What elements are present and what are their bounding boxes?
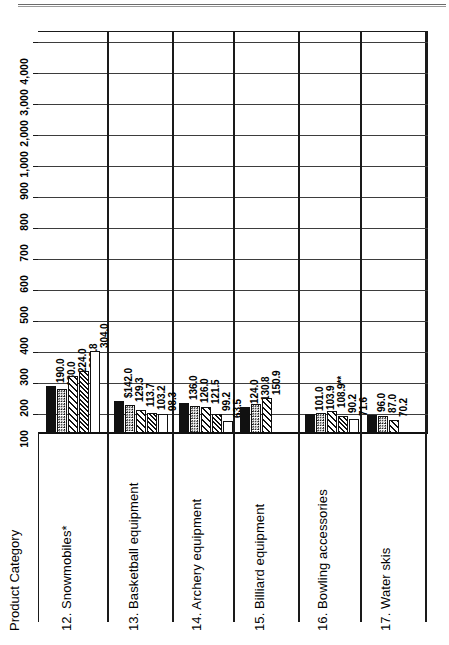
value-axis-tick-label: 1,000 — [18, 151, 30, 178]
category-label: 12. Snowmobiles* — [59, 525, 74, 631]
value-axis-tick-label: 600 — [18, 275, 30, 293]
label-band-left-rule — [38, 432, 39, 622]
tick-mark — [33, 352, 38, 353]
bar — [240, 407, 250, 433]
bar — [212, 414, 222, 433]
value-axis-tick-label: 200 — [18, 399, 30, 417]
bar — [46, 386, 56, 433]
value-axis-tick-label: 4,000 — [18, 58, 30, 85]
bar — [223, 421, 233, 433]
bar — [338, 416, 348, 433]
category-axis-title: Product Category — [7, 530, 22, 631]
value-axis-tick-label: 900 — [18, 182, 30, 200]
group-separator — [298, 31, 300, 622]
tick-mark — [33, 383, 38, 384]
bar — [136, 410, 146, 433]
category-label: 17. Water skis — [378, 548, 393, 631]
bar — [158, 414, 168, 433]
bar — [57, 389, 67, 433]
value-axis-tick-label: 500 — [18, 306, 30, 324]
bar — [90, 351, 100, 433]
bar — [114, 401, 124, 433]
bar — [201, 407, 211, 433]
label-band-right-rule — [425, 31, 427, 622]
group-separator — [233, 31, 235, 622]
group-separator — [360, 31, 362, 622]
tick-mark — [33, 321, 38, 322]
bar — [316, 413, 326, 433]
bar — [125, 405, 135, 433]
category-label: 15. Billiard equipment — [252, 504, 267, 631]
bar — [68, 376, 78, 433]
bar — [147, 413, 157, 433]
value-axis-tick-label: 400 — [18, 337, 30, 355]
bar — [305, 414, 315, 433]
tick-mark — [33, 73, 38, 74]
bar — [79, 371, 89, 433]
value-axis-tick-label: 3,000 — [18, 89, 30, 116]
value-axis-tick-label: 2,000 — [18, 120, 30, 147]
bar — [327, 411, 337, 433]
category-label: 13. Basketball equipment — [126, 483, 141, 631]
bar-chart: 1002003004005006007008009001,0002,0003,0… — [0, 0, 449, 645]
tick-mark — [33, 42, 38, 43]
tick-mark — [33, 414, 38, 415]
bar — [389, 420, 399, 433]
tick-mark — [33, 197, 38, 198]
bar — [378, 416, 388, 433]
tick-mark — [33, 135, 38, 136]
tick-mark — [33, 166, 38, 167]
bar — [262, 398, 272, 433]
value-axis-tick-label: 100 — [18, 430, 30, 448]
bar — [349, 419, 359, 433]
value-axis-tick-label: 800 — [18, 213, 30, 231]
tick-mark — [33, 104, 38, 105]
group-separator — [172, 31, 174, 622]
tick-mark — [33, 259, 38, 260]
tick-mark — [33, 228, 38, 229]
value-axis-tick-label: 700 — [18, 244, 30, 262]
bar — [190, 406, 200, 433]
category-label: 14. Archery equipment — [189, 499, 204, 631]
tick-mark — [33, 290, 38, 291]
bar — [367, 415, 377, 433]
bar — [179, 403, 189, 433]
value-axis-tick-label: 300 — [18, 368, 30, 386]
category-label: 16. Bowling accessories — [315, 489, 330, 631]
bar — [251, 404, 261, 433]
